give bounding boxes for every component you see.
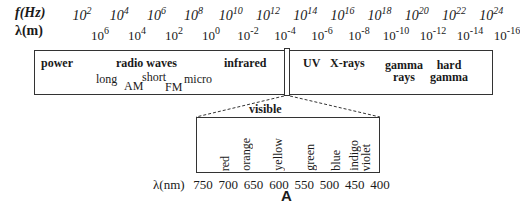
color-label-orange: orange xyxy=(241,138,252,171)
color-label-red: red xyxy=(220,156,231,171)
visible-title: visible xyxy=(249,102,282,117)
color-label-violet: violet xyxy=(361,144,372,171)
nm-tick: 700 xyxy=(219,177,239,193)
nm-tick: 650 xyxy=(244,177,264,193)
nm-tick: 500 xyxy=(320,177,340,193)
color-label-yellow: yellow xyxy=(273,138,284,171)
nm-tick: 550 xyxy=(294,177,314,193)
panel-label: A xyxy=(281,187,292,204)
color-label-green: green xyxy=(305,144,316,171)
nm-tick: 450 xyxy=(345,177,365,193)
zoom-line-right xyxy=(290,96,380,117)
nm-tick: 400 xyxy=(370,177,390,193)
nm-axis-label: λ(nm) xyxy=(153,177,185,193)
nm-tick: 750 xyxy=(193,177,213,193)
color-label-blue: blue xyxy=(331,150,342,171)
